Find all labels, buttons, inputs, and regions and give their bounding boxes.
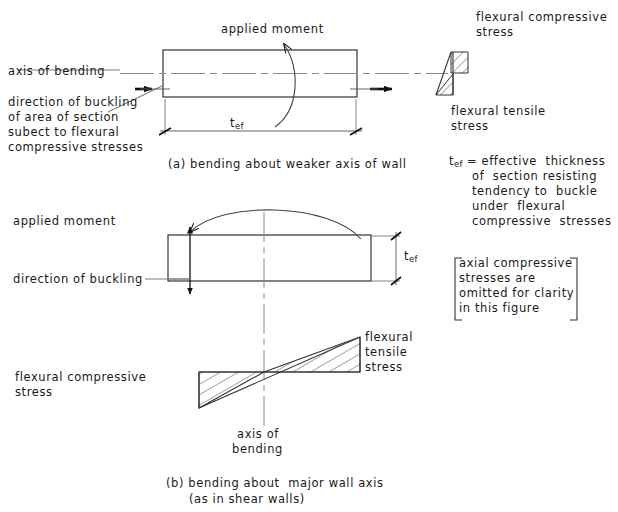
- bracket-note-text: axial compressive stresses are omitted f…: [459, 256, 574, 316]
- axis-of-bending-label-b-line2: bending: [232, 442, 283, 457]
- caption-b-line1: (b) bending about major wall axis: [166, 476, 384, 491]
- diagram-b-linework: [145, 210, 401, 428]
- direction-of-buckling-block-a: direction of buckling of area of section…: [8, 95, 143, 155]
- tef-definition-line-3: under flexural: [472, 199, 565, 214]
- flexural-compressive-stress-label-b: flexural compressive stress: [15, 370, 146, 400]
- wall-section-rectangle-b: [168, 235, 371, 281]
- axis-of-bending-label-b-line1: axis of: [237, 427, 279, 442]
- tef-definition-line-2: tendency to buckle: [472, 184, 597, 199]
- stress-tensile-shape-a: [436, 74, 453, 95]
- direction-of-buckling-label-b: direction of buckling: [13, 272, 143, 287]
- tef-definition-line-4: compressive stresses: [472, 214, 611, 229]
- flexural-compressive-stress-label-a: flexural compressive stress: [476, 10, 607, 40]
- engineering-figure: axis of bending direction of buckling of…: [0, 0, 618, 512]
- applied-moment-label-a: applied moment: [221, 22, 324, 37]
- applied-moment-label-b: applied moment: [13, 214, 116, 229]
- tef-dimension-label-a: tef: [230, 116, 244, 134]
- stress-compressive-triangle-b: [199, 372, 264, 408]
- tef-dimension-label-b: tef: [404, 249, 418, 267]
- flexural-tensile-stress-label-b: flexural tensile stress: [365, 330, 413, 375]
- stress-tensile-triangle-b: [264, 337, 360, 372]
- tef-definition-line-1: of section resisting: [472, 169, 597, 184]
- tef-definition-equals: = effective thickness: [467, 154, 605, 168]
- axis-of-bending-label-a: axis of bending: [8, 64, 105, 79]
- caption-b-line2: (as in shear walls): [189, 492, 305, 507]
- tef-sub-b: ef: [409, 254, 418, 264]
- caption-a: (a) bending about weaker axis of wall: [168, 157, 407, 172]
- tef-definition-sub: ef: [454, 159, 463, 169]
- flexural-tensile-stress-label-a: flexural tensile stress: [451, 104, 546, 134]
- applied-moment-curved-arrow-a: [275, 44, 295, 127]
- tef-sub-a: ef: [235, 121, 244, 131]
